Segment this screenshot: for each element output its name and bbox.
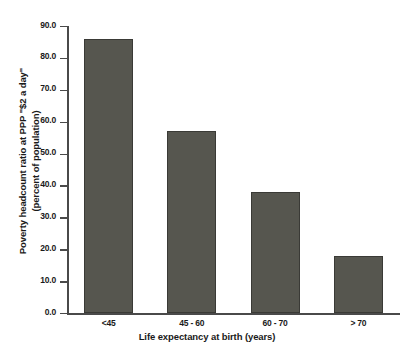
y-axis-tick: 0.0 [60, 313, 67, 314]
bar [251, 192, 300, 313]
x-axis-line [67, 313, 400, 315]
y-axis-tick-label: 20.0 [40, 243, 56, 253]
y-axis-tick-label: 70.0 [40, 83, 56, 93]
x-axis-tick-label: > 70 [318, 318, 398, 328]
y-axis-tick: 80.0 [60, 58, 67, 59]
y-axis-tick: 70.0 [60, 90, 67, 91]
bar [334, 256, 383, 313]
y-axis-tick: 20.0 [60, 249, 67, 250]
y-axis-tick: 60.0 [60, 122, 67, 123]
plot-area: 0.010.020.030.040.050.060.070.080.090.0 … [67, 26, 400, 313]
y-axis-tick-label: 50.0 [40, 147, 56, 157]
bar-chart-figure: Poverty headcount ratio at PPP "$2 a day… [0, 0, 414, 352]
y-axis-tick: 50.0 [60, 154, 67, 155]
y-axis-tick-label: 0.0 [45, 307, 56, 317]
y-axis-tick: 90.0 [60, 26, 67, 27]
y-axis-tick: 40.0 [60, 185, 67, 186]
y-axis-tick-label: 60.0 [40, 115, 56, 125]
y-axis-tick-label: 10.0 [40, 275, 56, 285]
y-axis-tick: 10.0 [60, 281, 67, 282]
y-axis-tick-label: 30.0 [40, 211, 56, 221]
y-axis-tick-label: 40.0 [40, 179, 56, 189]
y-axis-title-line-1: Poverty headcount ratio at PPP "$2 a day… [17, 11, 30, 311]
x-axis-tick-label: 45 - 60 [152, 318, 232, 328]
bar [167, 131, 216, 313]
y-axis-tick: 30.0 [60, 217, 67, 218]
bar [84, 39, 133, 313]
x-axis-tick-label: <45 [69, 318, 149, 328]
y-axis-tick-label: 80.0 [40, 51, 56, 61]
x-axis-tick-label: 60 - 70 [235, 318, 315, 328]
y-axis-line [67, 26, 69, 313]
x-axis-title: Life expectancy at birth (years) [0, 331, 414, 342]
y-axis-tick-label: 90.0 [40, 20, 56, 30]
